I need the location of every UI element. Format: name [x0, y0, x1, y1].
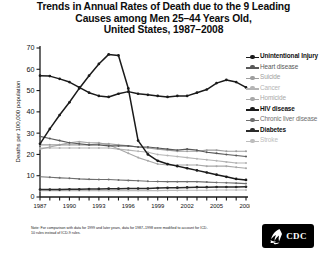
series-point	[78, 141, 80, 143]
series-point	[225, 153, 227, 155]
series-point	[117, 92, 120, 95]
legend-swatch-icon	[246, 127, 259, 136]
series-point	[196, 169, 199, 172]
series-point	[245, 185, 248, 188]
legend-item-label: Heart disease	[259, 63, 298, 70]
series-point	[235, 154, 237, 156]
series-point	[137, 157, 139, 159]
x-tick-label: 1990	[63, 203, 77, 209]
series-point	[225, 161, 227, 163]
legend-item[interactable]: Cancer	[246, 84, 327, 94]
series-point	[108, 147, 110, 149]
y-tick-label: 20	[27, 150, 35, 159]
series-point	[117, 179, 119, 181]
series-point	[88, 74, 91, 77]
series-point	[108, 145, 110, 147]
series-line-homicide	[40, 142, 246, 169]
series-point	[157, 163, 159, 165]
series-point	[166, 96, 169, 99]
series-point	[216, 149, 218, 151]
series-point	[68, 101, 71, 104]
series-point	[235, 150, 237, 152]
x-tick-label: 1987	[33, 203, 46, 209]
series-point	[39, 188, 42, 191]
series-point	[206, 159, 208, 161]
x-tick-label: 1993	[92, 203, 106, 209]
legend-swatch-icon	[246, 53, 259, 62]
legend-item[interactable]: HIV disease	[246, 105, 327, 115]
legend-swatch-icon	[246, 137, 259, 146]
hhs-eagle-icon	[269, 228, 284, 245]
legend-swatch-icon	[246, 64, 259, 73]
series-point	[235, 186, 238, 189]
cdc-logo: CDC	[262, 224, 314, 248]
legend-item[interactable]: Diabetes	[246, 126, 327, 136]
legend-item[interactable]: Chronic liver disease	[246, 115, 327, 125]
series-point	[206, 151, 208, 153]
series-point	[186, 164, 188, 166]
series-point	[167, 181, 169, 183]
series-point	[59, 140, 61, 142]
series-point	[78, 147, 80, 149]
series-point	[235, 182, 237, 184]
series-point	[196, 186, 199, 189]
legend-item[interactable]: Suicide	[246, 73, 327, 83]
series-point	[127, 149, 129, 151]
series-point	[147, 187, 150, 190]
series-point	[167, 148, 169, 150]
series-point	[176, 181, 178, 183]
legend-item[interactable]: Unintentional Injury	[246, 52, 327, 62]
legend-item[interactable]: Homicide	[246, 94, 327, 104]
chart-title-line-3: United States, 1987–2008	[18, 24, 309, 36]
series-point	[167, 189, 169, 191]
series-point	[176, 186, 179, 189]
series-point	[186, 167, 189, 170]
series-point	[39, 148, 41, 150]
series-point	[166, 187, 169, 190]
series-point	[68, 81, 71, 84]
series-point	[98, 63, 101, 66]
legend-swatch-icon	[246, 95, 259, 104]
series-point	[206, 181, 208, 183]
series-point	[78, 178, 80, 180]
series-point	[68, 147, 70, 149]
series-point	[216, 189, 218, 191]
series-point	[88, 142, 90, 144]
series-point	[245, 156, 247, 158]
series-point	[49, 146, 51, 148]
series-point	[58, 188, 61, 191]
legend-item[interactable]: Heart disease	[246, 63, 327, 73]
series-point	[147, 153, 150, 156]
series-point	[216, 160, 218, 162]
series-point	[216, 165, 218, 167]
legend-swatch-icon	[246, 106, 259, 115]
series-point	[98, 147, 100, 149]
series-point	[225, 186, 228, 189]
series-point	[225, 175, 228, 178]
legend-item-label: Suicide	[259, 73, 280, 80]
series-point	[196, 158, 198, 160]
series-point	[147, 190, 149, 192]
series-point	[157, 147, 159, 149]
legend-swatch-icon	[246, 74, 259, 83]
series-point	[48, 75, 51, 78]
series-point	[196, 149, 198, 151]
series-point	[245, 189, 247, 191]
series-point	[186, 181, 188, 183]
legend-item-label: Chronic liver disease	[259, 115, 317, 122]
y-tick-label: 30	[27, 129, 35, 138]
series-point	[107, 96, 110, 99]
legend-item[interactable]: Stroke	[246, 136, 327, 146]
series-point	[176, 189, 178, 191]
series-point	[215, 173, 218, 176]
series-point	[117, 187, 120, 190]
series-point	[167, 154, 169, 156]
series-point	[215, 186, 218, 189]
series-point	[196, 189, 198, 191]
series-point	[156, 159, 159, 162]
line-chart-svg: 0102030405060701987199019931996199920022…	[0, 40, 250, 220]
series-point	[127, 179, 129, 181]
series-point	[49, 137, 51, 139]
series-point	[137, 92, 140, 95]
series-point	[196, 181, 198, 183]
